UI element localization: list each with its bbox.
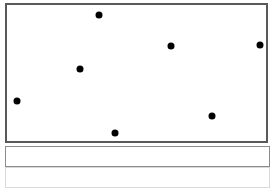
scatter-point[interactable] (209, 113, 216, 120)
scatter-point[interactable] (96, 12, 103, 19)
scatter-plot-area[interactable] (5, 3, 268, 143)
band-lower[interactable] (5, 167, 270, 188)
scatter-point[interactable] (257, 42, 264, 49)
band-upper-label (6, 147, 269, 166)
scatter-point[interactable] (112, 130, 119, 137)
scatter-point[interactable] (168, 43, 175, 50)
scatter-point[interactable] (14, 98, 21, 105)
band-lower-label (6, 168, 269, 187)
band-upper[interactable] (5, 146, 270, 167)
scatter-point[interactable] (77, 66, 84, 73)
figure-canvas (0, 0, 274, 192)
